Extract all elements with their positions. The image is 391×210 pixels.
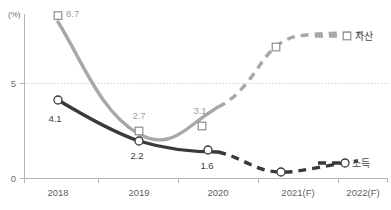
income-value-label-2018: 4.1 [48,113,61,124]
asset-marker-2019 [135,127,143,135]
legend-income-circle-marker-icon [341,159,349,167]
x-tick-label-2020: 2020 [207,187,228,198]
asset-marker-2021 [272,43,280,51]
legend-asset-label: 자산 [355,31,373,42]
legend-item-income[interactable]: 소득 [318,158,370,169]
asset-value-label-2019: 2.7 [132,110,145,121]
income-value-label-2020: 1.6 [200,160,213,171]
asset-marker-2018 [54,12,62,20]
chart-container: (%) 5 0 2018 2019 2020 2021(F) 2022(F) 8… [0,0,391,210]
y-axis-unit-label: (%) [8,10,21,19]
income-marker-2019 [135,137,143,145]
legend-asset-square-marker-icon [343,32,351,40]
asset-marker-2020 [198,122,206,130]
asset-line-forecast [218,33,362,107]
income-marker-2018 [54,96,62,104]
y-tick-label-5: 5 [11,78,16,89]
y-tick-label-0: 0 [11,173,16,184]
line-chart: (%) 5 0 2018 2019 2020 2021(F) 2022(F) 8… [0,0,391,210]
income-marker-2021 [277,168,285,176]
legend-income-label: 소득 [352,158,370,169]
x-tick-label-2018: 2018 [47,187,68,198]
x-tick-label-2022: 2022(F) [346,187,379,198]
x-tick-label-2021: 2021(F) [281,187,314,198]
x-tick-label-2019: 2019 [128,187,149,198]
asset-line-historical [58,22,218,140]
income-value-label-2019: 2.2 [130,150,143,161]
legend-item-asset[interactable]: 자산 [315,31,373,42]
income-marker-2020 [204,146,212,154]
asset-value-label-2018: 8.7 [66,8,79,19]
asset-value-label-2020: 3.1 [193,105,206,116]
